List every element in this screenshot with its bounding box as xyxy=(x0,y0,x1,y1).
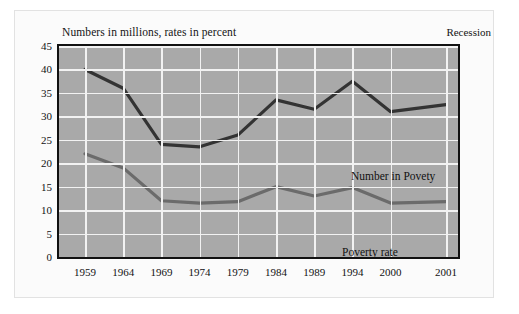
gridline-horizontal xyxy=(59,46,458,48)
gridline-vertical xyxy=(123,46,125,257)
y-axis-tick-label: 0 xyxy=(24,251,52,263)
y-axis-tick-label: 15 xyxy=(24,181,52,193)
x-axis-tick-label: 1964 xyxy=(112,266,134,278)
x-axis-tick-label: 1974 xyxy=(189,266,211,278)
series-label-poverty-rate: Poverty rate xyxy=(342,246,398,258)
gridline-horizontal xyxy=(59,187,458,189)
x-axis-tick-label: 1989 xyxy=(303,266,325,278)
x-axis-tick-label: 2000 xyxy=(380,266,402,278)
x-axis-tick-label: 1959 xyxy=(74,266,96,278)
gridline-horizontal xyxy=(59,163,458,165)
y-axis-labels: 051015202530354045 xyxy=(20,44,52,259)
series-label-number-in-poverty: Number in Povety xyxy=(351,170,435,182)
y-axis-tick-label: 45 xyxy=(24,40,52,52)
gridline-vertical xyxy=(238,46,240,257)
recession-annotation: Recession xyxy=(446,26,491,38)
x-axis-tick-label: 1969 xyxy=(150,266,172,278)
gridline-vertical xyxy=(391,46,393,257)
gridline-vertical xyxy=(314,46,316,257)
x-axis-labels: 1959196419691974197919841989199420002001 xyxy=(57,266,460,284)
series-lines xyxy=(59,46,458,257)
y-axis-tick-label: 20 xyxy=(24,157,52,169)
chart-title: Numbers in millions, rates in percent xyxy=(62,26,236,38)
y-axis-tick-label: 30 xyxy=(24,110,52,122)
gridline-horizontal xyxy=(59,93,458,95)
y-axis-tick-label: 35 xyxy=(24,87,52,99)
gridline-vertical xyxy=(200,46,202,257)
x-axis-tick-label: 1994 xyxy=(341,266,363,278)
poverty-chart-figure: Numbers in millions, rates in percent Re… xyxy=(0,0,519,314)
gridline-vertical xyxy=(352,46,354,257)
x-axis-tick-label: 2001 xyxy=(435,266,457,278)
y-axis-tick-label: 10 xyxy=(24,204,52,216)
gridline-horizontal xyxy=(59,116,458,118)
x-axis-tick-label: 1984 xyxy=(265,266,287,278)
gridline-vertical xyxy=(161,46,163,257)
gridline-horizontal xyxy=(59,69,458,71)
gridline-vertical xyxy=(85,46,87,257)
gridline-vertical xyxy=(446,46,448,257)
plot-area: Number in Povety Poverty rate xyxy=(57,44,460,259)
gridline-horizontal xyxy=(59,234,458,236)
gridline-horizontal xyxy=(59,140,458,142)
y-axis-tick-label: 25 xyxy=(24,134,52,146)
gridline-vertical xyxy=(276,46,278,257)
gridline-horizontal xyxy=(59,210,458,212)
y-axis-tick-label: 40 xyxy=(24,63,52,75)
x-axis-tick-label: 1979 xyxy=(227,266,249,278)
y-axis-tick-label: 5 xyxy=(24,228,52,240)
